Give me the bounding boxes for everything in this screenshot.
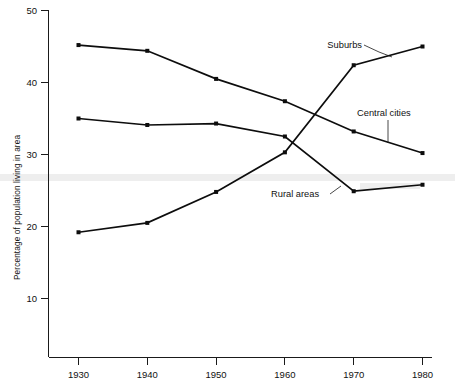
leader-line-rural-areas [330, 186, 341, 194]
data-point [77, 230, 81, 234]
series-rural-areas [77, 117, 425, 194]
line-chart-canvas: 50 40 30 20 10 Percentage of population … [0, 0, 455, 390]
series-path [79, 47, 423, 233]
data-point [77, 117, 81, 121]
y-tick-label-20: 20 [26, 221, 37, 232]
data-point [421, 151, 425, 155]
y-tick-label-50: 50 [26, 5, 37, 16]
data-point [214, 122, 218, 126]
data-point [214, 190, 218, 194]
data-point [283, 99, 287, 103]
annotation-rural-areas: Rural areas [271, 186, 341, 199]
series-label-rural-areas: Rural areas [271, 189, 319, 199]
chart-figure: 50 40 30 20 10 Percentage of population … [0, 0, 455, 390]
series-layer [77, 43, 425, 234]
data-point [352, 129, 356, 133]
data-point [77, 43, 81, 47]
x-tick-label-1950: 1950 [206, 369, 227, 380]
y-tick-label-40: 40 [26, 77, 37, 88]
data-point [145, 221, 149, 225]
data-point [145, 49, 149, 53]
x-tick-label-1940: 1940 [137, 369, 158, 380]
leader-line-suburbs [364, 45, 392, 57]
series-label-suburbs: Suburbs [327, 40, 362, 50]
data-point [352, 189, 356, 193]
data-point [145, 123, 149, 127]
y-tick-label-10: 10 [26, 293, 37, 304]
y-axis-title: Percentage of population living in area [13, 135, 22, 280]
x-tick-label-1960: 1960 [274, 369, 295, 380]
data-point [421, 45, 425, 49]
series-label-central-cities: Central cities [357, 108, 411, 118]
data-point [283, 135, 287, 139]
annotation-suburbs: Suburbs [327, 40, 392, 57]
data-point [421, 183, 425, 187]
data-point [283, 150, 287, 154]
annotation-central-cities: Central cities [357, 108, 411, 143]
y-tick-label-30: 30 [26, 149, 37, 160]
x-tick-label-1980: 1980 [412, 369, 433, 380]
x-axis: 1930 1940 1950 1960 1970 1980 [49, 358, 434, 381]
data-point [214, 77, 218, 81]
x-tick-label-1970: 1970 [343, 369, 364, 380]
x-tick-label-1930: 1930 [68, 369, 89, 380]
data-point [352, 63, 356, 67]
scan-smudge-band [0, 174, 455, 181]
series-suburbs [77, 45, 425, 235]
